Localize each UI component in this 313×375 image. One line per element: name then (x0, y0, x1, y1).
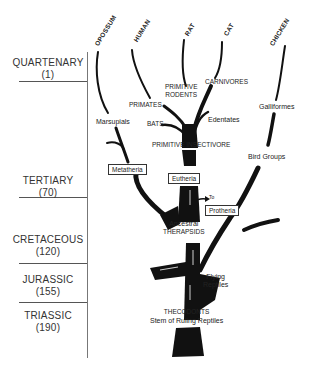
label-marsupials: Marsupials (96, 118, 130, 126)
era-divider (19, 81, 87, 82)
era-triassic: TRIASSIC (190) (10, 310, 86, 334)
era-divider (19, 263, 87, 264)
label-primates: PRIMATES (129, 101, 162, 109)
box-metatheria: Metatheria (108, 164, 147, 175)
era-jurassic: JURASSIC (155) (10, 274, 86, 298)
label-primitive-insectivore: PRIMITIVE INSECTIVORE (152, 141, 230, 149)
label-to: To (209, 193, 214, 201)
time-axis-line (87, 52, 88, 358)
box-protheria: Protheria (205, 205, 239, 216)
label-flying-reptiles-text: Flying Reptiles (203, 273, 228, 289)
era-quartenary: QUARTENARY (1) (10, 57, 86, 81)
era-divider (19, 302, 87, 303)
label-bird-groups: Bird Groups (248, 153, 285, 161)
label-galliformes: Galliformes (259, 103, 294, 111)
label-ancestral-therapsids: Ancestral THERAPSIDS (163, 220, 205, 236)
label-bats: BATS (147, 120, 164, 128)
box-eutheria: Eutheria (168, 173, 200, 184)
label-thecodonts: THECODONTS Stem of Ruling Reptiles (150, 307, 223, 325)
era-cretaceous: CRETACEOUS (120) (10, 234, 86, 258)
label-primitive-rodents: PRIMITIVE RODENTS (165, 83, 198, 99)
label-carnivores: CARNIVORES (205, 78, 248, 86)
era-tertiary: TERTIARY (70) (10, 175, 86, 199)
label-edentates: Edentates (208, 116, 240, 124)
